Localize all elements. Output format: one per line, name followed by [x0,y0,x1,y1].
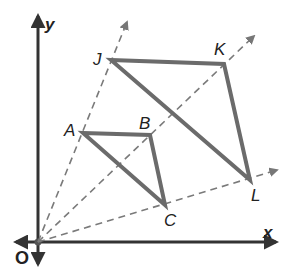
x-axis-label: x [262,223,274,242]
vertex-label-c: C [164,211,177,230]
triangle-abc [83,133,165,205]
y-axis-label: y [44,15,56,34]
vertex-label-j: J [92,50,102,69]
ray-ocl [38,170,277,242]
vertex-label-l: L [251,186,260,205]
vertex-label-b: B [139,114,150,133]
dilation-diagram: y x O A B C J K L [0,0,287,278]
vertex-label-a: A [63,121,75,140]
vertex-label-k: K [214,40,226,59]
origin-label: O [15,248,29,268]
triangle-jkl [111,60,250,180]
